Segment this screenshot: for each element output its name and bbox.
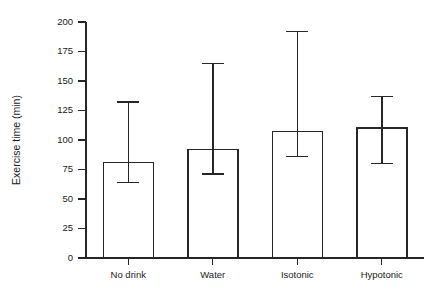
- y-tick-label-125: 125: [57, 104, 73, 115]
- y-axis-label: Exercise time (min): [10, 95, 22, 185]
- y-tick-label-25: 25: [62, 222, 73, 233]
- y-tick-label-75: 75: [62, 163, 73, 174]
- x-axis-ticks: [128, 258, 382, 265]
- bar-group-no-drink: [103, 102, 153, 258]
- y-tick-label-150: 150: [57, 75, 73, 86]
- bar-series: [103, 31, 407, 258]
- chart-figure: Exercise time (min) 200 175 150 125 100 …: [0, 0, 436, 298]
- y-axis-ticks: [78, 22, 86, 258]
- x-tick-label-0: No drink: [111, 269, 147, 280]
- x-tick-label-3: Hypotonic: [361, 269, 403, 280]
- y-tick-label-175: 175: [57, 45, 73, 56]
- bar-group-isotonic: [272, 31, 322, 258]
- x-axis-tick-labels: No drinkWaterIsotonicHypotonic: [111, 269, 404, 280]
- y-axis-tick-labels: 200 175 150 125 100 75 50 25 0: [57, 16, 73, 263]
- x-tick-label-1: Water: [200, 269, 225, 280]
- y-tick-label-0: 0: [68, 252, 73, 263]
- bar-group-hypotonic: [357, 96, 407, 258]
- x-tick-label-2: Isotonic: [281, 269, 314, 280]
- y-tick-label-100: 100: [57, 134, 73, 145]
- y-tick-label-50: 50: [62, 193, 73, 204]
- bar-chart: Exercise time (min) 200 175 150 125 100 …: [0, 0, 436, 298]
- bar-group-water: [188, 63, 238, 258]
- y-tick-label-200: 200: [57, 16, 73, 27]
